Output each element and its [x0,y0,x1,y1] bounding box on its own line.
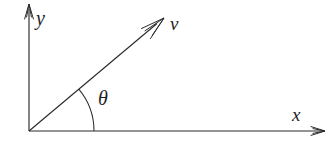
y-axis-group [25,4,34,131]
vector-v-group [29,18,164,131]
y-axis-label: y [36,8,45,28]
diagram-canvas [0,0,334,149]
angle-arc-group [79,89,94,131]
x-axis-group [29,127,325,136]
vector-v-arrowhead [142,18,165,39]
x-axis-label: x [292,105,300,124]
vector-v-line [29,24,157,132]
vector-label: v [170,14,178,33]
theta-arc [79,89,94,131]
angle-label: θ [98,88,108,108]
vector-angle-diagram: y x v θ [0,0,334,149]
